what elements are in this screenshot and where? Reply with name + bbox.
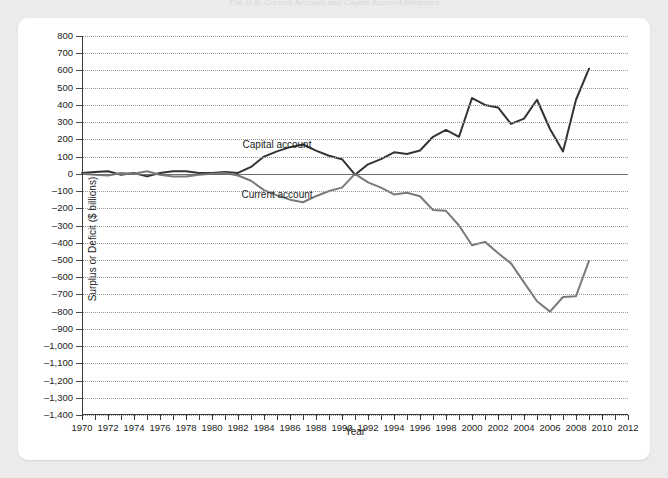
y-axis-tick [76,363,82,364]
x-axis-tick [329,415,330,420]
x-axis-tick [108,415,109,420]
gridline [82,398,628,399]
y-axis-tick-label: –200 [52,204,73,214]
x-axis-tick [355,415,356,420]
x-axis-tick [459,415,460,420]
y-axis-tick-label: –700 [52,290,73,300]
x-axis-tick [446,415,447,420]
y-axis-tick-label: –500 [52,255,73,265]
x-axis-tick [381,415,382,420]
faint-title-text: The U.S. Current Account and Capital Acc… [229,0,439,7]
y-axis-tick-label: –800 [52,307,73,317]
x-axis-tick [186,415,187,420]
y-axis-tick [76,381,82,382]
gridline [82,363,628,364]
gridline [82,70,628,71]
gridline [82,53,628,54]
x-axis-tick [615,415,616,420]
x-axis-tick [134,415,135,420]
series-line-current-account [82,171,589,311]
y-axis-tick-label: 0 [68,169,73,179]
series-label-current-account: Current account [241,189,312,200]
gridline [82,277,628,278]
gridline [82,139,628,140]
x-axis-tick [472,415,473,420]
x-axis-tick [199,415,200,420]
gridline [82,329,628,330]
gridline [82,243,628,244]
x-axis-tick [537,415,538,420]
gridline [82,226,628,227]
y-axis-tick [76,312,82,313]
gridline [82,157,628,158]
y-axis-tick-label: 800 [57,31,73,41]
y-axis-tick [76,191,82,192]
y-axis-tick [76,139,82,140]
plot-area: 8007006005004003002001000–100–200–300–40… [82,36,628,415]
y-axis-tick [76,277,82,278]
chart-card: Surplus or Deficit ($ billions) 80070060… [18,18,650,460]
y-axis-tick [76,157,82,158]
y-axis-tick [76,260,82,261]
x-axis-tick [225,415,226,420]
y-axis-tick [76,226,82,227]
x-axis-tick [121,415,122,420]
y-axis-tick [76,294,82,295]
y-axis-tick-label: –1,100 [44,359,73,369]
y-axis-tick-label: –600 [52,272,73,282]
x-axis-tick [602,415,603,420]
x-axis-tick [589,415,590,420]
x-axis-tick [368,415,369,420]
y-axis-tick [76,346,82,347]
x-axis-tick [264,415,265,420]
y-axis-line [82,36,83,415]
y-axis-tick-label: 700 [57,48,73,58]
x-axis-tick [511,415,512,420]
y-axis-tick-label: –900 [52,324,73,334]
y-axis-tick [76,36,82,37]
x-axis-tick [212,415,213,420]
gridline [82,312,628,313]
gridline [82,88,628,89]
y-axis-tick-label: 400 [57,100,73,110]
y-axis-tick-label: –1,300 [44,393,73,403]
gridline [82,260,628,261]
y-axis-tick-label: –1,400 [44,410,73,420]
y-axis-tick-label: 200 [57,135,73,145]
x-axis-tick [524,415,525,420]
y-axis-tick [76,208,82,209]
gridline [82,105,628,106]
y-axis-tick-label: –1,200 [44,376,73,386]
y-axis-tick-label: 100 [57,152,73,162]
y-axis-tick-label: 500 [57,83,73,93]
x-axis-tick [485,415,486,420]
gridline [82,381,628,382]
x-axis-tick [407,415,408,420]
x-axis-tick [303,415,304,420]
x-axis-tick [238,415,239,420]
x-axis-tick [342,415,343,420]
x-axis-tick [82,415,83,420]
gridline [82,294,628,295]
y-axis-tick [76,105,82,106]
gridline [82,122,628,123]
x-axis-tick [290,415,291,420]
gridline [82,208,628,209]
y-axis-tick [76,398,82,399]
x-axis-tick [251,415,252,420]
y-axis-tick-label: –300 [52,221,73,231]
zero-line [82,174,628,175]
series-label-capital-account: Capital account [243,138,312,149]
x-axis-tick [433,415,434,420]
x-axis-tick [394,415,395,420]
x-axis-tick [316,415,317,420]
gridline [82,36,628,37]
x-axis-tick [576,415,577,420]
y-axis-tick-label: –400 [52,238,73,248]
y-axis-tick [76,53,82,54]
x-axis-tick [498,415,499,420]
y-axis-tick [76,174,82,175]
y-axis-tick-label: 300 [57,117,73,127]
x-axis-tick [550,415,551,420]
x-axis-tick [160,415,161,420]
